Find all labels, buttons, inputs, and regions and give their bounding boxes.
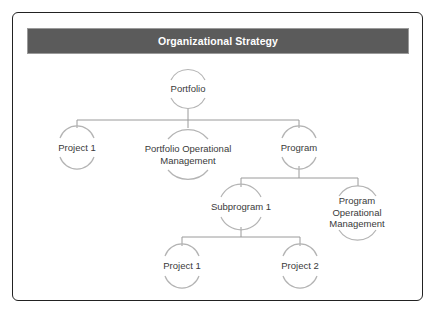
node-portfolio-ops-line1: Portfolio Operational: [145, 143, 232, 155]
node-program-ops: Program Operational Management: [329, 195, 384, 230]
node-subprogram1: Subprogram 1: [211, 201, 271, 213]
node-portfolio-ops-line2: Management: [145, 154, 232, 166]
node-portfolio-ops: Portfolio Operational Management: [145, 143, 232, 166]
node-program-ops-line1: Program: [329, 195, 384, 207]
node-program-ops-line2: Operational: [329, 206, 384, 218]
node-program-ops-line3: Management: [329, 218, 384, 230]
node-program-label: Program: [281, 142, 317, 153]
node-subprogram1-label: Subprogram 1: [211, 201, 271, 212]
node-portfolio-label: Portfolio: [171, 83, 206, 94]
node-project2: Project 2: [281, 260, 319, 272]
node-project1-bottom: Project 1: [163, 260, 201, 272]
node-project2-label: Project 2: [281, 260, 319, 271]
node-project1-top-label: Project 1: [58, 142, 96, 153]
node-project1-top: Project 1: [58, 142, 96, 154]
node-portfolio: Portfolio: [171, 83, 206, 95]
connectors: [77, 108, 358, 246]
node-project1-bottom-label: Project 1: [163, 260, 201, 271]
node-program: Program: [281, 142, 317, 154]
